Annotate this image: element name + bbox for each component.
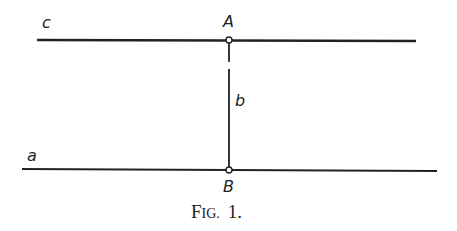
label-point-A: A bbox=[222, 12, 234, 31]
point-B bbox=[226, 167, 232, 173]
label-line-c: c bbox=[42, 13, 51, 32]
label-line-b: b bbox=[235, 91, 245, 110]
caption-prefix-small: IG. bbox=[202, 206, 220, 221]
label-line-a: a bbox=[27, 146, 37, 165]
point-A bbox=[226, 37, 232, 43]
diagram-canvas: c A b a B FIG.1. bbox=[0, 0, 457, 231]
label-point-B: B bbox=[223, 177, 234, 196]
caption-prefix-big: F bbox=[191, 201, 202, 222]
figure-caption: FIG.1. bbox=[191, 201, 242, 222]
caption-number: 1. bbox=[228, 201, 242, 222]
